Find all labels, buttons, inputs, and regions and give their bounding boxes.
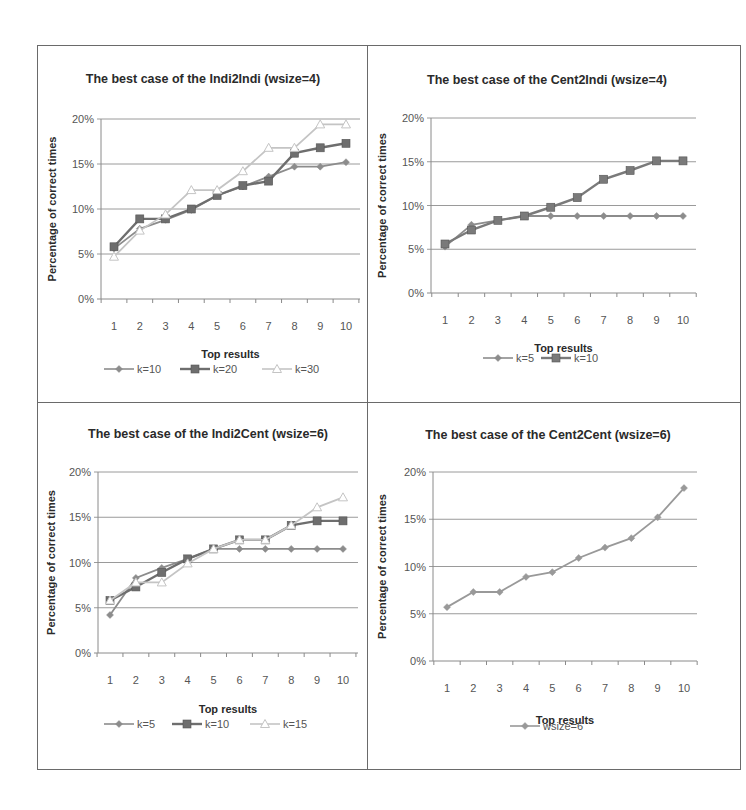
series-k=5 — [442, 213, 687, 251]
legend-label: k=10 — [205, 718, 229, 730]
series-line — [110, 521, 343, 601]
chart-title: The best case of the Indi2Indi (wsize=4) — [86, 72, 320, 86]
data-point-marker — [549, 569, 556, 576]
x-tick-label: 10 — [677, 314, 689, 326]
legend-marker — [183, 720, 191, 728]
x-tick-label: 10 — [340, 320, 352, 332]
y-axis-label: Percentage of correct times — [376, 133, 388, 278]
legend-item-k=15: k=15 — [250, 718, 307, 730]
x-tick-label: 3 — [159, 674, 165, 686]
x-tick-label: 1 — [107, 674, 113, 686]
y-tick-label: 20% — [72, 113, 94, 125]
data-point-marker — [187, 205, 195, 213]
y-tick-label: 5% — [75, 602, 91, 614]
x-tick-label: 6 — [240, 320, 246, 332]
data-point-marker — [340, 545, 347, 552]
data-point-marker — [626, 167, 634, 175]
chart-panel-3: The best case of the Indi2Cent (wsize=6)… — [45, 427, 358, 730]
y-tick-label: 0% — [78, 293, 94, 305]
legend-item-k=10: k=10 — [104, 363, 161, 375]
data-point-marker — [496, 589, 503, 596]
data-point-marker — [523, 573, 530, 580]
chart-panel-2: The best case of the Cent2Indi (wsize=4)… — [376, 73, 696, 364]
y-tick-label: 5% — [78, 248, 94, 260]
x-tick-label: 5 — [549, 682, 555, 694]
data-point-marker — [110, 243, 118, 251]
x-tick-label: 3 — [162, 320, 168, 332]
data-point-marker — [627, 213, 634, 220]
data-point-marker — [547, 213, 554, 220]
data-point-marker — [262, 545, 269, 552]
legend-label: k=15 — [283, 718, 307, 730]
series-k=10 — [106, 517, 347, 605]
data-point-marker — [600, 175, 608, 183]
data-point-marker — [600, 213, 607, 220]
y-tick-label: 15% — [72, 158, 94, 170]
y-tick-label: 0% — [410, 655, 426, 667]
x-tick-label: 3 — [495, 314, 501, 326]
x-axis-label: Top results — [199, 703, 257, 715]
data-point-marker — [680, 213, 687, 220]
y-tick-label: 20% — [69, 466, 91, 478]
series-wsize=6 — [444, 485, 688, 611]
data-point-marker — [236, 545, 243, 552]
data-point-marker — [316, 144, 324, 152]
legend-item-k=5: k=5 — [104, 718, 155, 730]
legend-label: wsize=6 — [542, 720, 583, 732]
chart-panel-4: The best case of the Cent2Cent (wsize=6)… — [376, 428, 697, 732]
x-tick-label: 2 — [470, 682, 476, 694]
x-tick-label: 4 — [521, 314, 527, 326]
data-point-marker — [314, 545, 321, 552]
y-tick-label: 0% — [75, 647, 91, 659]
data-point-marker — [653, 157, 661, 165]
x-tick-label: 6 — [576, 682, 582, 694]
series-line — [114, 143, 346, 247]
x-tick-label: 4 — [185, 674, 191, 686]
series-k=10 — [111, 159, 350, 252]
data-point-marker — [494, 216, 502, 224]
chart-title: The best case of the Cent2Cent (wsize=6) — [425, 428, 671, 442]
y-tick-label: 10% — [402, 200, 424, 212]
x-tick-label: 10 — [678, 682, 690, 694]
x-tick-label: 7 — [602, 682, 608, 694]
legend-item-wsize=6: wsize=6 — [510, 720, 583, 732]
legend-item-k=20: k=20 — [180, 363, 237, 375]
x-tick-label: 9 — [655, 682, 661, 694]
y-axis-label: Percentage of correct times — [45, 490, 57, 635]
data-point-marker — [288, 545, 295, 552]
legend-item-k=5: k=5 — [483, 352, 534, 364]
y-tick-label: 20% — [404, 466, 426, 478]
legend-label: k=20 — [213, 363, 237, 375]
x-tick-label: 5 — [214, 320, 220, 332]
data-point-marker — [158, 568, 166, 576]
legend-label: k=10 — [574, 352, 598, 364]
y-tick-label: 10% — [69, 557, 91, 569]
y-axis-label: Percentage of correct times — [46, 137, 58, 282]
charts-canvas: The best case of the Indi2Indi (wsize=4)… — [0, 0, 746, 810]
x-axis-label: Top results — [201, 348, 259, 360]
x-tick-label: 8 — [291, 320, 297, 332]
x-tick-label: 4 — [523, 682, 529, 694]
y-tick-label: 15% — [404, 513, 426, 525]
data-point-marker — [339, 517, 347, 525]
data-point-marker — [444, 604, 451, 611]
x-tick-label: 10 — [337, 674, 349, 686]
y-axis-label: Percentage of correct times — [376, 494, 388, 639]
x-tick-label: 2 — [133, 674, 139, 686]
x-tick-label: 6 — [236, 674, 242, 686]
chart-title: The best case of the Indi2Cent (wsize=6) — [88, 427, 328, 441]
legend-label: k=30 — [295, 363, 319, 375]
x-tick-label: 4 — [188, 320, 194, 332]
x-tick-label: 8 — [627, 314, 633, 326]
data-point-marker — [575, 554, 582, 561]
x-tick-label: 1 — [111, 320, 117, 332]
legend-marker — [552, 354, 560, 362]
y-tick-label: 5% — [408, 243, 424, 255]
data-point-marker — [679, 157, 687, 165]
x-tick-label: 8 — [288, 674, 294, 686]
legend-label: k=5 — [137, 718, 155, 730]
data-point-marker — [470, 589, 477, 596]
y-tick-label: 10% — [404, 561, 426, 573]
x-tick-label: 7 — [266, 320, 272, 332]
x-tick-label: 9 — [653, 314, 659, 326]
